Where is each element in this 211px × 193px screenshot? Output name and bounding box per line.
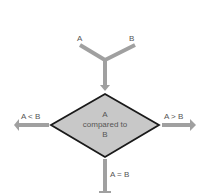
left-arrowhead-icon — [14, 119, 19, 131]
branch-equal-label: A = B — [110, 170, 129, 179]
input-a-label: A — [77, 34, 82, 43]
right-arrowhead-icon — [190, 119, 196, 131]
decision-line-2: compared to — [65, 120, 145, 130]
flowchart-canvas — [0, 0, 211, 193]
input-b-label: B — [129, 34, 134, 43]
input-arrows — [80, 45, 135, 85]
branch-less-than-label: A < B — [21, 112, 40, 121]
decision-line-1: A — [65, 110, 145, 120]
down-arrowhead-icon — [100, 85, 110, 91]
decision-line-3: B — [65, 130, 145, 140]
branch-greater-than-label: A > B — [164, 112, 183, 121]
